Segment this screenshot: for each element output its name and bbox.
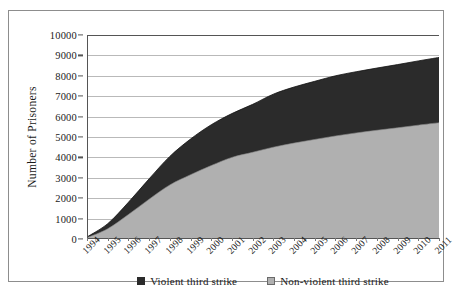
y-tick-mark bbox=[78, 96, 83, 97]
legend-label-violent: Violent third strike bbox=[150, 275, 237, 287]
legend-item-nonviolent: Non-violent third strike bbox=[267, 275, 389, 287]
y-tick-label: 3000 bbox=[55, 172, 77, 183]
x-tick-mark bbox=[87, 238, 88, 241]
x-tick-mark bbox=[128, 238, 129, 241]
x-tick-mark bbox=[273, 238, 274, 241]
x-tick-mark bbox=[418, 238, 419, 241]
chart-legend: Violent third strike Non-violent third s… bbox=[87, 273, 439, 289]
y-tick-label: 4000 bbox=[55, 152, 77, 163]
plot-frame bbox=[87, 35, 439, 239]
y-tick-mark bbox=[78, 34, 83, 35]
x-tick-mark bbox=[356, 238, 357, 241]
y-tick-mark bbox=[78, 177, 83, 178]
x-tick-mark bbox=[439, 238, 440, 241]
y-tick-mark bbox=[78, 55, 83, 56]
x-tick-mark bbox=[315, 238, 316, 241]
x-tick-mark bbox=[191, 238, 192, 241]
y-tick-mark bbox=[78, 157, 83, 158]
y-tick-mark bbox=[78, 116, 83, 117]
violent-swatch-icon bbox=[137, 277, 145, 285]
y-tick-label: 6000 bbox=[55, 111, 77, 122]
y-tick-label: 7000 bbox=[55, 91, 77, 102]
nonviolent-swatch-icon bbox=[267, 277, 275, 285]
x-tick-mark bbox=[377, 238, 378, 241]
x-tick-mark bbox=[398, 238, 399, 241]
x-tick-mark bbox=[294, 238, 295, 241]
y-tick-mark bbox=[78, 136, 83, 137]
y-tick-label: 5000 bbox=[55, 132, 77, 143]
y-tick-label: 9000 bbox=[55, 50, 77, 61]
x-tick-mark bbox=[211, 238, 212, 241]
x-tick-mark bbox=[149, 238, 150, 241]
y-tick-label: 10000 bbox=[50, 30, 77, 41]
y-tick-mark bbox=[78, 75, 83, 76]
y-tick-label: 8000 bbox=[55, 70, 77, 81]
x-tick-mark bbox=[232, 238, 233, 241]
y-tick-mark bbox=[78, 198, 83, 199]
x-tick-mark bbox=[335, 238, 336, 241]
chart-figure: Number of Prisoners 10000900080007000600… bbox=[8, 10, 444, 282]
y-tick-mark bbox=[78, 238, 83, 239]
y-tick-label: 0 bbox=[72, 234, 77, 245]
x-axis-tick-labels: 1994199519961997199819992000200120022003… bbox=[87, 241, 439, 275]
x-tick-mark bbox=[253, 238, 254, 241]
x-tick-mark bbox=[108, 238, 109, 241]
y-tick-label: 1000 bbox=[55, 213, 77, 224]
x-tick-mark bbox=[170, 238, 171, 241]
plot-area bbox=[87, 35, 439, 239]
legend-label-nonviolent: Non-violent third strike bbox=[280, 275, 389, 287]
y-tick-mark bbox=[78, 218, 83, 219]
y-tick-label: 2000 bbox=[55, 193, 77, 204]
y-axis-tick-labels: 1000090008000700060005000400030002000100… bbox=[9, 35, 83, 239]
legend-item-violent: Violent third strike bbox=[137, 275, 237, 287]
